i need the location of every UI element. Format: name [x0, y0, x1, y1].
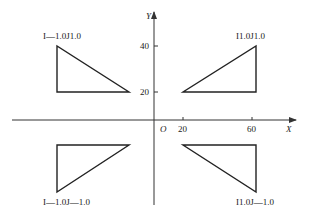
- triangle-upper-right: [183, 46, 256, 92]
- x-tick-label-60: 60: [247, 124, 257, 134]
- origin-label: O: [160, 124, 167, 134]
- label-lower-right: I1.0J—1.0: [236, 197, 274, 207]
- mirror-diagram: Y X O 20 60 40 20 I—1.0J1.0 I1.0J1.0 I—1…: [0, 0, 309, 221]
- triangle-lower-right: [183, 145, 256, 192]
- y-axis-label: Y: [146, 11, 152, 21]
- y-tick-label-20: 20: [140, 87, 150, 97]
- x-tick-label-20: 20: [178, 124, 188, 134]
- y-tick-label-40: 40: [140, 41, 150, 51]
- triangle-upper-left: [57, 46, 129, 92]
- triangle-lower-left: [57, 145, 129, 192]
- label-upper-right: I1.0J1.0: [236, 31, 265, 41]
- label-upper-left: I—1.0J1.0: [43, 31, 81, 41]
- x-axis-label: X: [285, 124, 292, 134]
- label-lower-left: I—1.0J—1.0: [43, 197, 90, 207]
